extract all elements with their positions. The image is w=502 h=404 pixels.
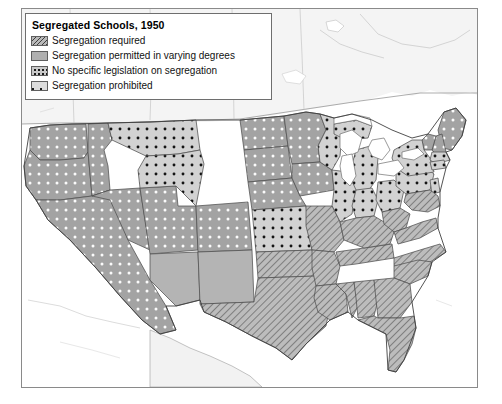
- legend-label-required: Segregation required: [52, 35, 145, 47]
- state-north-dakota: [240, 116, 288, 150]
- map-legend: Segregated Schools, 1950 Segregation req…: [25, 13, 272, 100]
- legend-label-prohibited: Segregation prohibited: [52, 80, 153, 92]
- legend-swatch-permitted: [31, 51, 48, 61]
- state-connecticut: [430, 160, 446, 170]
- legend-swatch-prohibited: [31, 81, 48, 91]
- map-page: Segregated Schools, 1950 Segregation req…: [0, 0, 502, 404]
- legend-label-permitted: Segregation permitted in varying degrees: [52, 50, 235, 62]
- legend-title: Segregated Schools, 1950: [32, 19, 266, 31]
- legend-swatch-required: [31, 36, 48, 46]
- state-arkansas: [312, 250, 340, 286]
- legend-label-no-legislation: No specific legislation on segregation: [52, 65, 217, 77]
- state-indiana: [352, 188, 378, 218]
- state-washington: [30, 124, 88, 160]
- legend-item-permitted[interactable]: Segregation permitted in varying degrees: [31, 49, 266, 63]
- legend-item-required[interactable]: Segregation required: [31, 34, 266, 48]
- state-south-dakota: [244, 146, 292, 182]
- state-kansas: [252, 206, 312, 252]
- legend-item-prohibited[interactable]: Segregation prohibited: [31, 79, 266, 93]
- state-oklahoma: [256, 250, 318, 278]
- state-colorado: [196, 202, 252, 252]
- state-new-mexico: [198, 250, 254, 304]
- legend-item-no-legislation[interactable]: No specific legislation on segregation: [31, 64, 266, 78]
- legend-swatch-no-legislation: [31, 66, 48, 76]
